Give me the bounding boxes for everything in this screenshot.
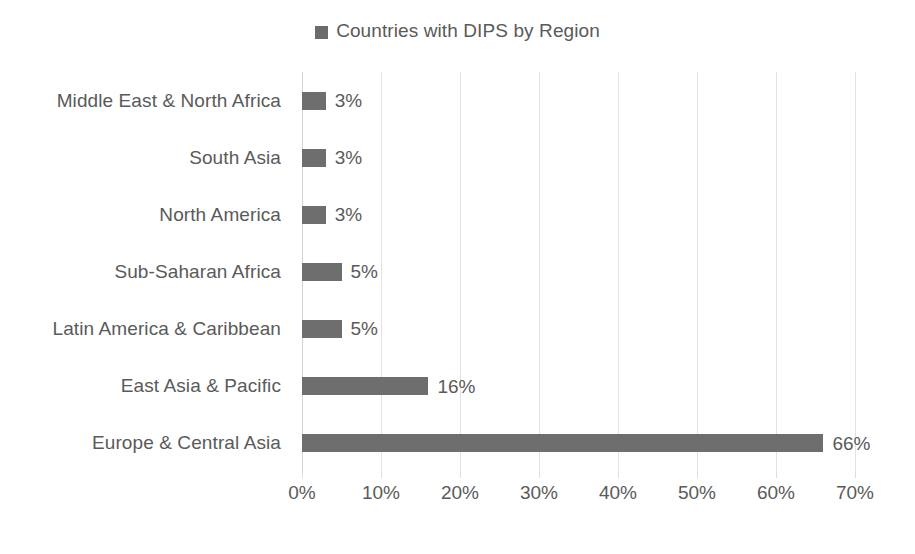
bar-rows: 3% 3% 3% 5% 5% 16% [302, 72, 855, 472]
xtick-label-10: 10% [362, 482, 400, 504]
xtick-mark-20 [460, 472, 461, 478]
legend-swatch-icon [315, 26, 328, 39]
bar-value-1: 3% [335, 148, 362, 167]
y-axis-label-2: North America [159, 186, 281, 243]
xtick-mark-40 [618, 472, 619, 478]
xtick-label-60: 60% [757, 482, 795, 504]
y-axis-label-4: Latin America & Caribbean [52, 300, 281, 357]
xtick-mark-0 [302, 472, 303, 478]
y-axis-label-1: South Asia [189, 129, 281, 186]
xtick-label-70: 70% [836, 482, 874, 504]
y-axis-label-5: East Asia & Pacific [121, 358, 281, 415]
bar-sub-saharan-africa[interactable] [302, 263, 342, 281]
bar-row-4: 5% [302, 300, 855, 357]
bar-row-2: 3% [302, 186, 855, 243]
xtick-mark-60 [776, 472, 777, 478]
gridline-70 [855, 72, 856, 472]
bar-row-6: 66% [302, 415, 855, 472]
xtick-label-20: 20% [441, 482, 479, 504]
xtick-label-30: 30% [520, 482, 558, 504]
x-axis-tick-labels: 0% 10% 20% 30% 40% 50% 60% 70% [302, 482, 855, 512]
y-axis-label-3: Sub-Saharan Africa [114, 243, 281, 300]
xtick-label-40: 40% [599, 482, 637, 504]
bar-value-0: 3% [335, 91, 362, 110]
y-axis-category-labels: Middle East & North Africa South Asia No… [0, 72, 281, 472]
bar-value-2: 3% [335, 205, 362, 224]
bar-value-3: 5% [351, 262, 378, 281]
y-axis-label-0: Middle East & North Africa [57, 72, 281, 129]
bar-row-1: 3% [302, 129, 855, 186]
bar-row-3: 5% [302, 243, 855, 300]
chart-legend: Countries with DIPS by Region [0, 20, 915, 42]
bar-row-5: 16% [302, 358, 855, 415]
y-axis-label-6: Europe & Central Asia [92, 415, 281, 472]
bar-north-america[interactable] [302, 206, 326, 224]
xtick-label-0: 0% [288, 482, 315, 504]
bar-value-5: 16% [437, 377, 475, 396]
bar-south-asia[interactable] [302, 149, 326, 167]
bar-middle-east-north-africa[interactable] [302, 92, 326, 110]
legend-label: Countries with DIPS by Region [336, 20, 600, 42]
xtick-mark-70 [855, 472, 856, 478]
bar-europe-central-asia[interactable] [302, 434, 823, 452]
bar-value-6: 66% [832, 434, 870, 453]
bar-row-0: 3% [302, 72, 855, 129]
bar-value-4: 5% [351, 319, 378, 338]
bar-east-asia-pacific[interactable] [302, 377, 428, 395]
plot-area: 3% 3% 3% 5% 5% 16% [302, 72, 855, 472]
xtick-label-50: 50% [678, 482, 716, 504]
bar-chart: Countries with DIPS by Region Middle Eas… [0, 0, 915, 554]
xtick-mark-50 [697, 472, 698, 478]
bar-latin-america-caribbean[interactable] [302, 320, 342, 338]
xtick-mark-10 [381, 472, 382, 478]
xtick-mark-30 [539, 472, 540, 478]
